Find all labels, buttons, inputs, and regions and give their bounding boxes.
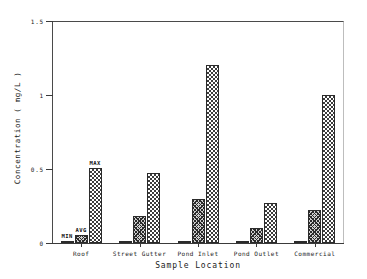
y-tick-label: 0.5: [4, 166, 44, 173]
bar-avg: [133, 216, 146, 243]
bar-min: [119, 241, 132, 243]
bar-avg: [308, 210, 321, 243]
x-tick-mark: [140, 243, 141, 247]
bar-min: [178, 241, 191, 243]
x-category-label: Commercial: [280, 250, 350, 257]
x-axis-title: Sample Location: [52, 261, 344, 270]
x-tick-mark: [198, 243, 199, 247]
x-tick-mark: [315, 243, 316, 247]
bar-max: [147, 173, 160, 243]
y-tick-label: 1: [4, 92, 44, 99]
bar-max: [322, 95, 335, 243]
bar-min: [236, 241, 249, 243]
bar-min: [294, 241, 307, 243]
y-tick-mark: [46, 95, 53, 96]
annotation-avg: AVG: [69, 227, 93, 233]
y-axis-title: Concentration ( mg/L ): [13, 28, 22, 228]
y-tick-label: 1.5: [4, 18, 44, 25]
bar-avg: [192, 199, 205, 243]
annotation-max: MAX: [83, 160, 107, 166]
y-tick-mark: [46, 243, 53, 244]
bar-chart-figure: Concentration ( mg/L ) 00.511.5 RoofStre…: [0, 0, 367, 279]
bar-avg: [250, 228, 263, 243]
bar-max: [206, 65, 219, 243]
y-tick-mark: [46, 169, 53, 170]
annotation-min: MIN: [55, 233, 79, 239]
y-tick-label: 0: [4, 240, 44, 247]
x-tick-mark: [256, 243, 257, 247]
bar-min: [61, 241, 74, 243]
y-tick-mark: [46, 21, 53, 22]
x-tick-mark: [81, 243, 82, 247]
bar-max: [264, 203, 277, 243]
